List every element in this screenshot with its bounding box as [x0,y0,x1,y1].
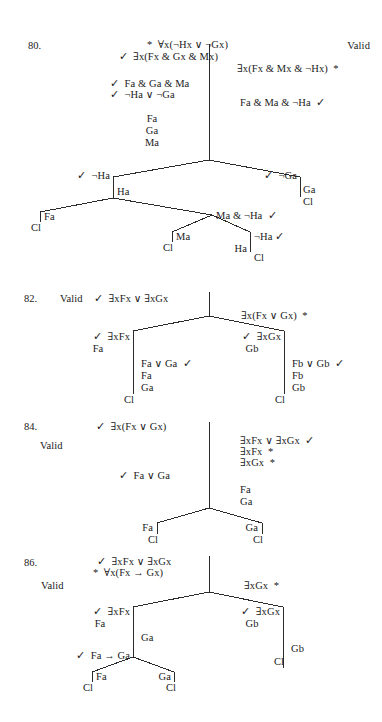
p82-left-head: ✓ ∃xFx [93,331,130,343]
p80-leaf-fa: Fa [44,211,55,223]
p82-left-disjunction: Fa ∨ Ga ✓ [141,358,192,370]
p80-stack-ma: Ma [145,137,159,149]
p84-leaf-left-close: Cl [148,534,158,546]
p80-instance-a: ✓ Fa & Ga & Ma [110,78,189,90]
p86-leaf-fa: Fa [96,671,107,683]
p84-verdict: Valid [40,440,63,452]
p82-right-head: ✓ ∃xGx [242,331,281,343]
p84-negated-conclusion-1: ∃xFx ∨ ∃xGx ✓ [240,435,314,447]
p80-branch-left-ha: Ha [117,186,129,198]
p86-left-instance: Fa [95,618,106,630]
p80-branch-right-negga: ✓ ¬Ga [264,170,297,182]
p80-verdict: Valid [347,40,370,52]
p80-instance-b: ✓ ¬Ha ∨ ¬Ga [110,89,175,101]
p86-premise-1: ✓ ∃xFx ∨ ∃xGx [97,556,171,568]
p86-left-conditional: ✓ Fa → Ga [76,650,130,662]
p80-branch-right-ga: Ga [303,184,315,196]
p84-negated-conclusion-3: ∃xGx * [240,457,275,469]
p86-right-instance: Gb [245,618,258,630]
problem-number-84: 84. [24,421,37,433]
p84-leaf-right-close: Cl [253,534,263,546]
p80-leaf-fa-close: Cl [31,222,41,234]
p82-left-disjunct-2: Ga [141,382,153,394]
p86-right-gb: Gb [291,643,304,655]
p82-left-disjunct-1: Fa [141,370,152,382]
p82-right-disjunction: Fb ∨ Gb ✓ [292,358,344,370]
p86-leaf-fa-close: Cl [83,682,93,694]
p86-leaf-ga-close: Cl [166,682,176,694]
p80-branch-right-close: Cl [303,196,313,208]
p82-verdict: Valid [60,293,83,305]
problem-number-86: 86. [24,557,37,569]
p80-negated-conclusion: ∃x(Fx & Mx & ¬Hx) * [237,63,339,75]
p80-negated-conclusion-instance: Fa & Ma & ¬Ha ✓ [240,97,325,109]
p80-premise-2: ✓ ∃x(Fx & Gx & Mx) [119,51,218,63]
p84-leaf-right: Ga [246,522,258,534]
answer-key-page: 80. * ∀x(¬Hx ∨ ¬Gx) ✓ ∃x(Fx & Gx & Mx) V… [0,0,382,722]
p86-negated-conclusion: ∃xGx * [244,580,279,592]
p86-right-head: ✓ ∃xGx [241,606,280,618]
problem-number-82: 82. [24,293,37,305]
p80-premise-1: * ∀x(¬Hx ∨ ¬Gx) [147,39,228,51]
p82-right-close: Cl [275,394,285,406]
p86-right-close: Cl [274,656,284,668]
p86-leaf-ga: Ga [159,671,171,683]
p86-left-head: ✓ ∃xFx [93,606,130,618]
p80-sub-negha-close: Cl [254,252,264,264]
p84-instance-ga: Ga [240,496,252,508]
p80-sub-ma: Ma [176,231,190,243]
p82-right-disjunct-2: Gb [292,382,305,394]
problem-number-80: 80. [28,40,41,52]
p82-negated-conclusion: ∃x(Fx ∨ Gx) * [241,310,308,322]
p82-left-close: Cl [124,394,134,406]
p80-sub-ha: Ha [235,243,247,255]
p82-right-disjunct-1: Fb [292,370,303,382]
p80-stack-ga: Ga [146,125,158,137]
p82-premise-1: ✓ ∃xFx ∨ ∃xGx [94,293,168,305]
p82-right-instance: Gb [245,343,258,355]
p86-premise-2: * ∀x(Fx → Gx) [93,567,163,579]
p80-sub-ma-close: Cl [163,242,173,254]
p80-conjunction-right: Ma & ¬Ha ✓ [216,210,277,222]
p82-left-instance: Fa [93,343,104,355]
p84-disjunction: ✓ Fa ∨ Ga [119,470,170,482]
p84-leaf-left: Fa [142,522,153,534]
p84-premise-1: ✓ ∃x(Fx ∨ Gx) [96,421,166,433]
p84-negated-conclusion-2: ∃xFx * [240,446,273,458]
p86-verdict: Valid [41,580,64,592]
p86-left-ga: Ga [141,632,153,644]
p80-stack-fa: Fa [147,113,158,125]
p84-instance-fa: Fa [240,484,251,496]
p80-sub-negha: ¬Ha ✓ [254,231,284,243]
p80-branch-left-negha: ✓ ¬Ha [77,170,110,182]
